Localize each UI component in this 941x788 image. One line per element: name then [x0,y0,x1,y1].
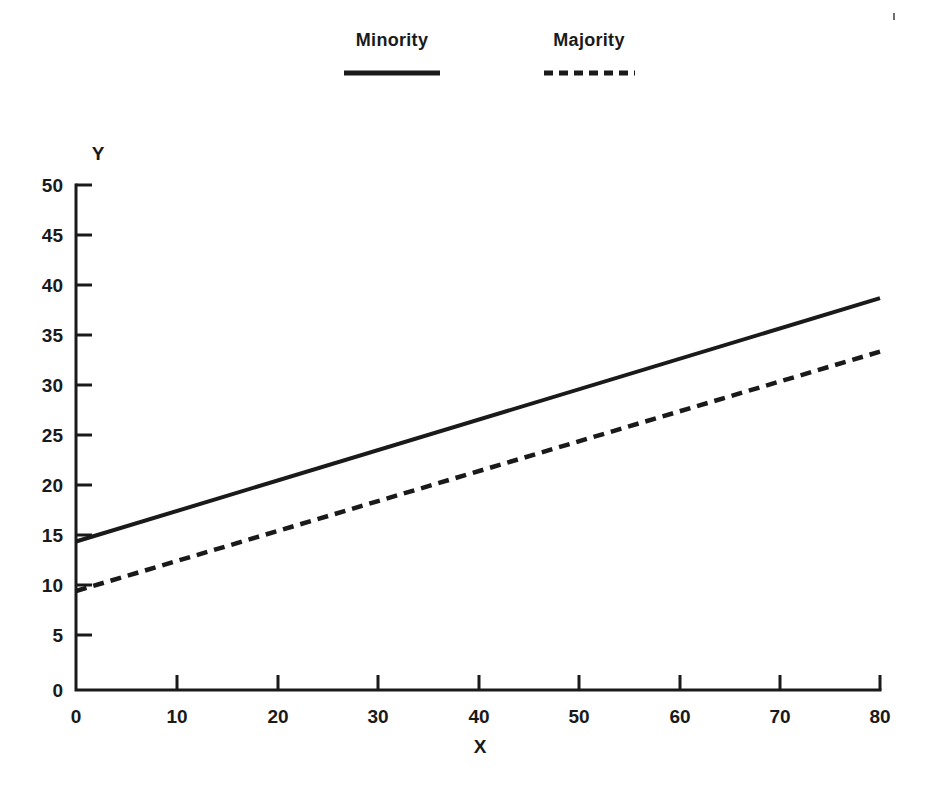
data-series-group [76,298,880,591]
axis-spine [76,185,880,690]
x-tick-label-30: 30 [367,706,388,727]
y-tick-label-15: 15 [42,525,64,546]
y-axis-ticks [76,185,92,635]
y-tick-label-10: 10 [42,575,63,596]
x-tick-label-70: 70 [769,706,790,727]
chart-plot-area: Y X 50 45 40 35 30 25 20 15 [0,0,941,788]
y-tick-label-20: 20 [42,475,63,496]
x-axis-tick-labels: 0 10 20 30 40 50 60 70 80 [71,706,891,727]
y-axis-title: Y [92,143,105,164]
x-axis-title: X [474,736,487,757]
x-tick-label-80: 80 [869,706,890,727]
y-tick-label-35: 35 [42,325,64,346]
y-tick-label-0: 0 [52,680,63,701]
y-tick-label-25: 25 [42,425,64,446]
y-tick-label-30: 30 [42,375,63,396]
y-tick-label-5: 5 [52,625,63,646]
y-tick-label-45: 45 [42,225,64,246]
x-tick-label-60: 60 [669,706,690,727]
y-tick-label-50: 50 [42,175,63,196]
x-tick-label-50: 50 [568,706,589,727]
series-line-majority [76,352,880,591]
x-tick-label-20: 20 [267,706,288,727]
chart-figure: Minority Majority Y X [0,0,941,788]
x-tick-label-10: 10 [166,706,187,727]
y-tick-label-40: 40 [42,275,63,296]
x-tick-label-40: 40 [468,706,489,727]
y-axis-tick-labels: 50 45 40 35 30 25 20 15 10 5 0 [42,175,64,701]
series-line-minority [76,298,880,541]
x-tick-label-0: 0 [71,706,82,727]
scan-artifact-speck [893,13,895,20]
x-axis-ticks [177,675,880,690]
